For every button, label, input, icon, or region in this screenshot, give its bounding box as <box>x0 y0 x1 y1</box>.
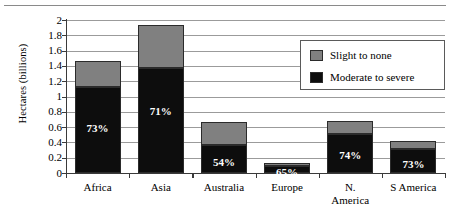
y-axis-tick <box>62 81 67 82</box>
bar-australia: 54% <box>201 122 247 173</box>
bar-europe: 65% <box>264 163 310 173</box>
bar-data-label: 74% <box>327 150 373 161</box>
grid-line <box>66 127 445 128</box>
x-axis-tick <box>382 173 383 178</box>
y-axis-tick-label: 0.4 <box>26 137 62 148</box>
y-axis-tick <box>62 142 67 143</box>
x-axis-tick <box>256 173 257 178</box>
y-axis-tick-label: 1.4 <box>26 60 62 71</box>
x-axis-tick <box>192 173 193 178</box>
bar-segment-slight-to-none <box>138 25 184 68</box>
x-axis-label-s-america: S America <box>373 181 450 194</box>
bar-data-label: 71% <box>138 106 184 117</box>
bar-asia: 71% <box>138 25 184 173</box>
bar-segment-slight-to-none <box>75 61 121 87</box>
legend-item-slight-to-none: Slight to none <box>310 48 392 62</box>
bar-s-america: 73% <box>390 141 436 173</box>
x-axis-tick <box>445 173 446 178</box>
grid-line <box>66 20 445 21</box>
grid-line <box>66 35 445 36</box>
bar-data-label: 73% <box>390 159 436 170</box>
y-axis-tick-label: 2 <box>26 15 62 26</box>
x-axis-tick <box>319 173 320 178</box>
grid-line <box>66 97 445 98</box>
y-axis-tick <box>62 97 67 98</box>
chart-legend: Slight to none Moderate to severe <box>300 40 445 90</box>
y-axis-tick-label: 1.2 <box>26 76 62 87</box>
y-axis-tick-label: 0.6 <box>26 122 62 133</box>
y-axis-tick-label: 1.8 <box>26 30 62 41</box>
bar-data-label: 65% <box>264 167 310 178</box>
top-divider <box>4 5 446 6</box>
bar-segment-moderate-to-severe <box>138 68 184 173</box>
legend-swatch-moderate-to-severe <box>310 72 323 83</box>
y-axis-tick <box>62 35 67 36</box>
legend-item-moderate-to-severe: Moderate to severe <box>310 70 414 84</box>
grid-line <box>66 112 445 113</box>
x-axis-tick <box>66 173 67 178</box>
legend-swatch-slight-to-none <box>310 50 323 61</box>
y-axis-tick-label: 0 <box>26 168 62 179</box>
chart-figure: Hectares (billions) 00.20.40.60.811.21.4… <box>0 0 450 219</box>
y-axis-tick-label: 1.6 <box>26 45 62 56</box>
y-axis-tick <box>62 51 67 52</box>
y-axis-tick <box>62 158 67 159</box>
bar-africa: 73% <box>75 61 121 173</box>
bar-segment-slight-to-none <box>327 121 373 134</box>
y-axis-tick-label: 0.2 <box>26 152 62 163</box>
grid-line <box>66 158 445 159</box>
x-axis-tick <box>129 173 130 178</box>
bar-data-label: 54% <box>201 157 247 168</box>
bar-data-label: 73% <box>75 123 121 134</box>
legend-label-moderate-to-severe: Moderate to severe <box>330 72 414 83</box>
y-axis-tick-label: 1 <box>26 91 62 102</box>
bar-n-america: 74% <box>327 121 373 173</box>
y-axis-tick <box>62 112 67 113</box>
bar-segment-slight-to-none <box>390 141 436 149</box>
y-axis-tick-label: 0.8 <box>26 106 62 117</box>
y-axis-tick <box>62 20 67 21</box>
y-axis-tick <box>62 66 67 67</box>
legend-label-slight-to-none: Slight to none <box>330 50 392 61</box>
bar-segment-slight-to-none <box>201 122 247 146</box>
y-axis-tick <box>62 127 67 128</box>
grid-line <box>66 142 445 143</box>
